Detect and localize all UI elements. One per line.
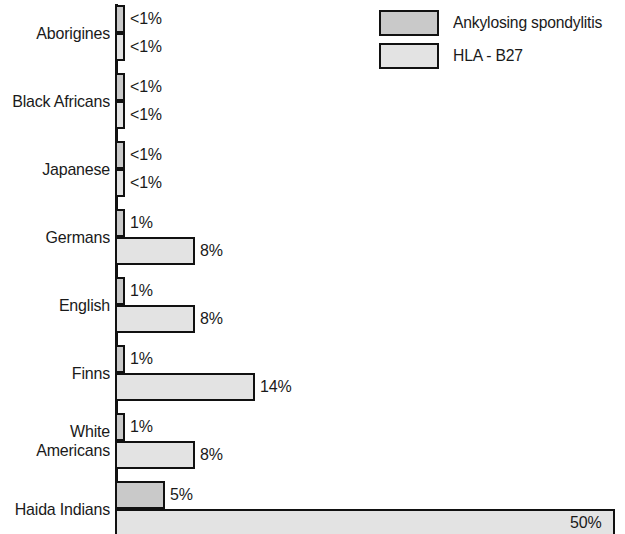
bar-hla-b27-haida-indians: 50% — [115, 509, 615, 534]
bar-value-hla-b27-finns: 14% — [260, 377, 291, 397]
bar-row-ankylosing-spondylitis-english: 1% — [115, 277, 154, 305]
bar-ankylosing-spondylitis-haida-indians — [115, 481, 165, 509]
bar-value-ankylosing-spondylitis-germans: 1% — [130, 213, 153, 233]
bar-value-ankylosing-spondylitis-black-africans: <1% — [130, 77, 162, 97]
category-label-white-americans: White Americans — [0, 413, 110, 469]
bar-value-ankylosing-spondylitis-japanese: <1% — [130, 145, 162, 165]
bar-group-germans: Germans1%8% — [0, 209, 625, 265]
category-label-aborigines: Aborigines — [0, 5, 110, 61]
bar-hla-b27-aborigines — [115, 33, 125, 61]
bar-ankylosing-spondylitis-white-americans — [115, 413, 125, 441]
bar-row-hla-b27-aborigines: <1% — [115, 33, 164, 61]
category-label-finns: Finns — [0, 345, 110, 401]
bar-row-hla-b27-white-americans: 8% — [115, 441, 224, 469]
bar-value-hla-b27-japanese: <1% — [130, 173, 162, 193]
bar-row-ankylosing-spondylitis-finns: 1% — [115, 345, 154, 373]
bar-ankylosing-spondylitis-black-africans — [115, 73, 125, 101]
category-label-english: English — [0, 277, 110, 333]
bar-group-black-africans: Black Africans<1%<1% — [0, 73, 625, 129]
bar-ankylosing-spondylitis-germans — [115, 209, 125, 237]
bar-value-hla-b27-black-africans: <1% — [130, 105, 162, 125]
bar-ankylosing-spondylitis-finns — [115, 345, 125, 373]
plot-area: Aborigines<1%<1%Black Africans<1%<1%Japa… — [0, 0, 625, 534]
bar-row-hla-b27-english: 8% — [115, 305, 224, 333]
category-label-japanese: Japanese — [0, 141, 110, 197]
bar-row-ankylosing-spondylitis-germans: 1% — [115, 209, 154, 237]
bar-hla-b27-black-africans — [115, 101, 125, 129]
bar-row-hla-b27-black-africans: <1% — [115, 101, 164, 129]
bar-row-ankylosing-spondylitis-haida-indians: 5% — [115, 481, 194, 509]
bar-row-ankylosing-spondylitis-white-americans: 1% — [115, 413, 154, 441]
bar-group-english: English1%8% — [0, 277, 625, 333]
bar-value-ankylosing-spondylitis-finns: 1% — [130, 349, 153, 369]
bar-group-haida-indians: Haida Indians5%50% — [0, 481, 625, 534]
bar-ankylosing-spondylitis-japanese — [115, 141, 125, 169]
bar-hla-b27-english — [115, 305, 195, 333]
category-label-black-africans: Black Africans — [0, 73, 110, 129]
bar-value-hla-b27-haida-indians: 50% — [570, 513, 601, 533]
bar-value-ankylosing-spondylitis-haida-indians: 5% — [170, 485, 193, 505]
bar-row-hla-b27-finns: 14% — [115, 373, 293, 401]
bar-ankylosing-spondylitis-english — [115, 277, 125, 305]
bar-group-finns: Finns1%14% — [0, 345, 625, 401]
bar-group-white-americans: White Americans1%8% — [0, 413, 625, 469]
bar-value-ankylosing-spondylitis-white-americans: 1% — [130, 417, 153, 437]
bar-row-hla-b27-germans: 8% — [115, 237, 224, 265]
bar-row-ankylosing-spondylitis-black-africans: <1% — [115, 73, 164, 101]
bar-value-hla-b27-germans: 8% — [200, 241, 223, 261]
bar-value-hla-b27-aborigines: <1% — [130, 37, 162, 57]
bar-value-ankylosing-spondylitis-english: 1% — [130, 281, 153, 301]
bar-group-aborigines: Aborigines<1%<1% — [0, 5, 625, 61]
category-label-haida-indians: Haida Indians — [0, 481, 110, 534]
category-label-germans: Germans — [0, 209, 110, 265]
bar-ankylosing-spondylitis-aborigines — [115, 5, 125, 33]
bar-group-japanese: Japanese<1%<1% — [0, 141, 625, 197]
bar-chart-figure: Ankylosing spondylitis HLA - B27 Aborigi… — [0, 0, 625, 534]
bar-hla-b27-japanese — [115, 169, 125, 197]
bar-value-hla-b27-white-americans: 8% — [200, 445, 223, 465]
bar-row-ankylosing-spondylitis-aborigines: <1% — [115, 5, 164, 33]
bar-value-hla-b27-english: 8% — [200, 309, 223, 329]
bar-value-ankylosing-spondylitis-aborigines: <1% — [130, 9, 162, 29]
bar-hla-b27-finns — [115, 373, 255, 401]
bar-hla-b27-white-americans — [115, 441, 195, 469]
bar-row-hla-b27-haida-indians: 50% — [115, 509, 615, 534]
bar-row-hla-b27-japanese: <1% — [115, 169, 164, 197]
bar-hla-b27-germans — [115, 237, 195, 265]
bar-row-ankylosing-spondylitis-japanese: <1% — [115, 141, 164, 169]
